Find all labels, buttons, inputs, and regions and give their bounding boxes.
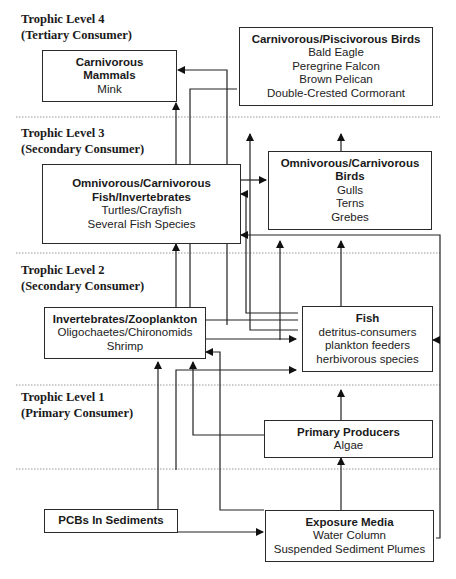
node-exposure-media: Exposure Media Water Column Suspended Se… — [265, 510, 434, 562]
level-title: Trophic Level 2 — [21, 262, 144, 278]
node-omnivorous-fish-invertebrates: Omnivorous/Carnivorous Fish/Invertebrate… — [42, 164, 241, 244]
node-item: Shrimp — [107, 340, 143, 354]
node-omnivorous-birds: Omnivorous/Carnivorous Birds Gulls Terns… — [268, 151, 432, 230]
node-item: Gulls — [337, 184, 363, 198]
node-title: Primary Producers — [297, 426, 400, 440]
node-title: Exposure Media — [305, 516, 393, 530]
node-item: Turtles/Crayfish — [101, 204, 181, 218]
node-title: PCBs In Sediments — [58, 514, 163, 528]
node-item: Oligochaetes/Chironomids — [58, 326, 193, 340]
node-pcbs-in-sediments: PCBs In Sediments — [44, 509, 178, 533]
node-title: Omnivorous/Carnivorous — [281, 157, 420, 171]
level-title: Trophic Level 3 — [21, 125, 144, 141]
node-title: Fish/Invertebrates — [92, 191, 191, 205]
node-title: Fish — [356, 312, 380, 326]
trophic-level-2-label: Trophic Level 2 (Secondary Consumer) — [21, 262, 144, 294]
node-item: Grebes — [331, 211, 369, 225]
node-item: Brown Pelican — [299, 73, 373, 87]
node-item: Peregrine Falcon — [292, 60, 380, 74]
level-subtitle: (Tertiary Consumer) — [21, 27, 132, 43]
node-item: herbivorous species — [316, 353, 418, 367]
node-title: Invertebrates/Zooplankton — [53, 313, 197, 327]
node-item: Terns — [336, 197, 364, 211]
node-primary-producers: Primary Producers Algae — [264, 420, 433, 458]
level-subtitle: (Secondary Consumer) — [21, 278, 144, 294]
node-item: Water Column — [313, 529, 386, 543]
node-fish: Fish detritus-consumers plankton feeders… — [302, 306, 433, 372]
node-item: Bald Eagle — [308, 46, 364, 60]
level-subtitle: (Secondary Consumer) — [21, 141, 144, 157]
node-item: Mink — [97, 83, 121, 97]
node-carnivorous-mammals: Carnivorous Mammals Mink — [42, 50, 177, 102]
node-title: Omnivorous/Carnivorous — [72, 177, 211, 191]
node-title: Mammals — [83, 69, 135, 83]
node-title: Carnivorous/Piscivorous Birds — [252, 33, 421, 47]
trophic-level-3-label: Trophic Level 3 (Secondary Consumer) — [21, 125, 144, 157]
node-title: Birds — [335, 170, 364, 184]
level-title: Trophic Level 1 — [21, 389, 133, 405]
trophic-level-1-label: Trophic Level 1 (Primary Consumer) — [21, 389, 133, 421]
trophic-level-4-label: Trophic Level 4 (Tertiary Consumer) — [21, 11, 132, 43]
node-item: plankton feeders — [325, 339, 410, 353]
node-item: Double-Crested Cormorant — [267, 87, 405, 101]
node-item: Algae — [334, 439, 363, 453]
food-web-diagram: Trophic Level 4 (Tertiary Consumer) Trop… — [0, 0, 456, 579]
level-title: Trophic Level 4 — [21, 11, 132, 27]
node-invertebrates-zooplankton: Invertebrates/Zooplankton Oligochaetes/C… — [44, 307, 206, 359]
node-item: Several Fish Species — [87, 218, 195, 232]
node-title: Carnivorous — [76, 56, 144, 70]
node-item: detritus-consumers — [319, 326, 417, 340]
node-item: Suspended Sediment Plumes — [274, 543, 426, 557]
level-subtitle: (Primary Consumer) — [21, 405, 133, 421]
node-piscivorous-birds: Carnivorous/Piscivorous Birds Bald Eagle… — [239, 27, 433, 106]
